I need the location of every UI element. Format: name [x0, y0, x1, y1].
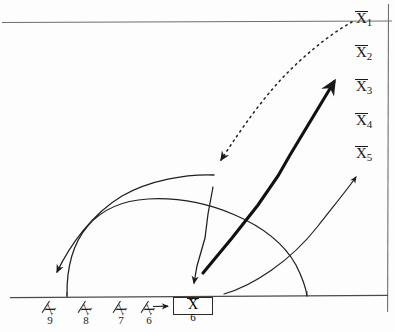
x-bar-6-boxed-label: X6: [173, 298, 213, 323]
x-bar-9-label: X9: [42, 303, 58, 326]
x-bar-1-symbol: X: [356, 10, 367, 26]
x-bar-3-label: X3: [356, 78, 372, 96]
x-bar-8-label: X8: [78, 303, 94, 326]
x-bar-1-subscript: 1: [367, 16, 373, 28]
x-bar-7-label: X7: [113, 303, 129, 326]
x-bar-4-symbol: X: [356, 112, 367, 128]
x-bar-6-boxed-subscript: 6: [173, 312, 213, 323]
x-bar-1-label: X1: [356, 10, 372, 28]
x-bar-4-subscript: 4: [367, 118, 373, 130]
figure-strokes: [0, 0, 395, 332]
vertical-arrow-down: [194, 187, 213, 283]
thick-arrow-up-right: [203, 82, 334, 273]
x-bar-6-boxed-symbol: X: [188, 298, 198, 312]
x-bar-6-label: X6: [141, 303, 157, 326]
thin-curve-up-right: [224, 177, 356, 294]
top-rule: [2, 21, 392, 23]
x-bar-3-subscript: 3: [367, 84, 373, 96]
x-bar-2-subscript: 2: [367, 50, 373, 62]
x-bar-5-symbol: X: [356, 145, 367, 161]
right-rule: [388, 4, 389, 312]
x-bar-4-label: X4: [356, 112, 372, 130]
x-bar-2-label: X2: [356, 44, 372, 62]
curved-arrow-down-left: [57, 175, 214, 272]
x-bar-3-symbol: X: [356, 78, 367, 94]
x-bar-5-subscript: 5: [367, 151, 373, 163]
x-bar-5-label: X5: [356, 145, 372, 163]
x-bar-2-symbol: X: [356, 44, 367, 60]
dotted-arrow-down-left: [221, 22, 352, 160]
dome-arc: [67, 199, 307, 296]
sketch-canvas: X1 X2 X3 X4 X5 X9 X8 X7 X6 X6: [0, 0, 395, 332]
